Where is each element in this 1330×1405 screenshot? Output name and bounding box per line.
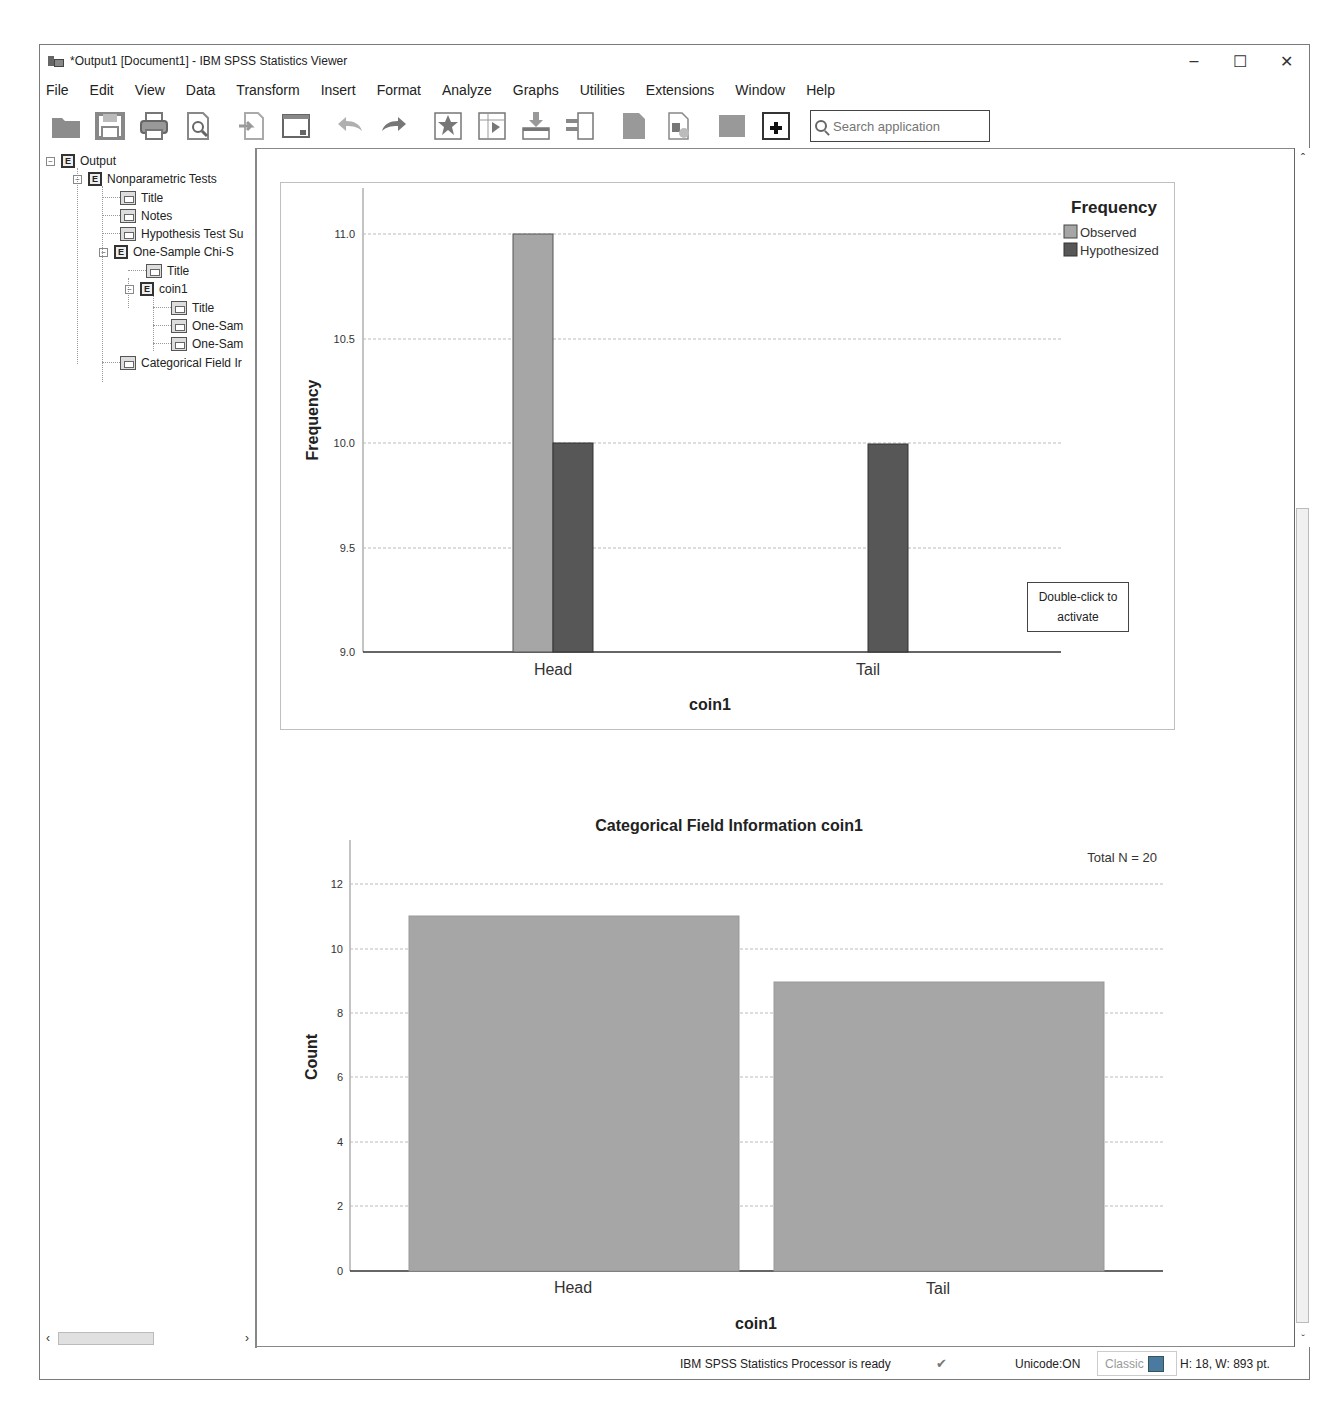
close-button[interactable]: ✕ <box>1263 45 1309 77</box>
designate-window-icon[interactable] <box>662 110 694 142</box>
menu-insert[interactable]: Insert <box>321 82 356 98</box>
search-input[interactable] <box>831 118 981 135</box>
title-icon <box>171 301 187 315</box>
insert-output-icon[interactable] <box>760 110 792 142</box>
categorical-field-info-chart[interactable]: Categorical Field Information coin1 Tota… <box>297 804 1197 1344</box>
minimize-button[interactable]: – <box>1171 45 1217 77</box>
menu-file[interactable]: File <box>46 82 69 98</box>
x-axis-title: coin1 <box>689 696 731 713</box>
svg-text:10: 10 <box>331 943 343 955</box>
outline-item-label: One-Sam <box>192 319 243 333</box>
double-click-to-activate-hint: Double-click to activate <box>1027 582 1129 632</box>
bar-tail-count <box>774 982 1104 1271</box>
outline-item-one-sample-table[interactable]: One-Sam <box>171 317 243 335</box>
svg-text:12: 12 <box>331 878 343 890</box>
svg-text:coin1: coin1 <box>735 1315 777 1332</box>
scroll-thumb[interactable] <box>58 1332 154 1345</box>
undo-icon[interactable] <box>334 110 366 142</box>
goto-case-icon[interactable] <box>476 110 508 142</box>
outline-item-label: Output <box>80 154 116 168</box>
open-folder-icon[interactable] <box>50 110 82 142</box>
menu-utilities[interactable]: Utilities <box>580 82 625 98</box>
classic-mode-toggle[interactable]: Classic <box>1097 1351 1177 1376</box>
collapse-toggle[interactable]: − <box>46 157 55 166</box>
scroll-down-icon[interactable]: ˇ <box>1295 1333 1311 1345</box>
dialog-recall-icon[interactable] <box>280 110 312 142</box>
legend-label-observed: Observed <box>1080 225 1136 240</box>
menu-transform[interactable]: Transform <box>236 82 299 98</box>
collapse-toggle[interactable]: − <box>99 248 108 257</box>
insert-variable-icon[interactable] <box>564 110 596 142</box>
menu-help[interactable]: Help <box>806 82 835 98</box>
item-dimensions: H: 18, W: 893 pt. <box>1180 1357 1270 1371</box>
show-all-icon[interactable] <box>618 110 650 142</box>
title-bar: *Output1 [Document1] - IBM SPSS Statisti… <box>40 45 1309 77</box>
outline-item-title[interactable]: Title <box>146 262 189 280</box>
menu-window[interactable]: Window <box>735 82 785 98</box>
table-icon <box>171 319 187 333</box>
print-icon[interactable] <box>138 110 170 142</box>
svg-text:8: 8 <box>337 1007 343 1019</box>
collapse-toggle[interactable]: − <box>125 285 134 294</box>
legend-swatch-observed <box>1064 225 1077 238</box>
y-tick: 10.0 <box>334 437 355 449</box>
redo-icon[interactable] <box>378 110 410 142</box>
outline-horizontal-scrollbar[interactable]: ‹ › <box>40 1329 255 1347</box>
menu-edit[interactable]: Edit <box>90 82 114 98</box>
outline-item-label: Notes <box>141 209 172 223</box>
notes-icon <box>120 209 136 223</box>
menu-data[interactable]: Data <box>186 82 216 98</box>
book-icon: E <box>88 172 102 186</box>
outline-item-nonparametric-tests[interactable]: − E Nonparametric Tests <box>73 170 217 188</box>
bar-head-observed <box>513 234 553 652</box>
chart2-title: Categorical Field Information coin1 <box>595 817 863 834</box>
status-bar: IBM SPSS Statistics Processor is ready ✔… <box>40 1348 1309 1380</box>
outline-item-notes[interactable]: Notes <box>120 207 172 225</box>
menu-graphs[interactable]: Graphs <box>513 82 559 98</box>
content-vertical-scrollbar[interactable]: ˆ ˇ <box>1294 148 1310 1347</box>
maximize-button[interactable]: ☐ <box>1217 45 1263 77</box>
goto-data-icon[interactable] <box>432 110 464 142</box>
svg-text:4: 4 <box>337 1136 343 1148</box>
classic-mode-label: Classic <box>1105 1357 1144 1371</box>
search-application-field[interactable] <box>810 110 990 142</box>
collapse-toggle[interactable]: − <box>73 175 82 184</box>
scroll-right-icon[interactable]: › <box>239 1331 255 1345</box>
table-icon <box>120 227 136 241</box>
menu-bar: File Edit View Data Transform Insert For… <box>40 78 856 102</box>
x-tick: Tail <box>856 661 880 678</box>
scroll-thumb[interactable] <box>1296 508 1309 1323</box>
menu-analyze[interactable]: Analyze <box>442 82 492 98</box>
scroll-up-icon[interactable]: ˆ <box>1295 152 1311 166</box>
chart1-svg: 11.0 10.5 10.0 9.5 9.0 Head Tail coin1 F… <box>281 183 1176 731</box>
save-icon[interactable] <box>94 110 126 142</box>
outline-item-title[interactable]: Title <box>171 299 214 317</box>
legend-label-hypothesized: Hypothesized <box>1080 243 1159 258</box>
insert-cases-icon[interactable] <box>520 110 552 142</box>
outline-item-one-sample-chart[interactable]: One-Sam <box>171 335 243 353</box>
outline-item-label: coin1 <box>159 282 188 296</box>
outline-item-hypothesis-test-summary[interactable]: Hypothesis Test Su <box>120 225 244 243</box>
menu-format[interactable]: Format <box>377 82 421 98</box>
outline-item-output[interactable]: − E Output <box>46 152 116 170</box>
menu-extensions[interactable]: Extensions <box>646 82 714 98</box>
export-icon[interactable] <box>236 110 268 142</box>
outline-item-title[interactable]: Title <box>120 189 163 207</box>
outline-item-label: Nonparametric Tests <box>107 172 217 186</box>
outline-item-one-sample-chi-square[interactable]: − E One-Sample Chi-S <box>99 243 234 261</box>
y-tick: 11.0 <box>334 228 355 240</box>
y-axis-title: Frequency <box>304 379 321 460</box>
outline-item-coin1[interactable]: − E coin1 <box>125 280 188 298</box>
scroll-left-icon[interactable]: ‹ <box>40 1331 56 1345</box>
svg-text:2: 2 <box>337 1200 343 1212</box>
print-preview-icon[interactable] <box>182 110 214 142</box>
select-last-output-icon[interactable] <box>716 110 748 142</box>
menu-view[interactable]: View <box>135 82 165 98</box>
outline-item-label: Title <box>192 301 214 315</box>
outline-item-label: One-Sam <box>192 337 243 351</box>
legend-title: Frequency <box>1071 198 1158 217</box>
outline-item-categorical-field-info[interactable]: Categorical Field Ir <box>120 354 242 372</box>
y-tick: 9.5 <box>340 542 355 554</box>
search-icon <box>815 120 827 132</box>
chi-square-frequency-chart[interactable]: 11.0 10.5 10.0 9.5 9.0 Head Tail coin1 F… <box>280 182 1175 730</box>
